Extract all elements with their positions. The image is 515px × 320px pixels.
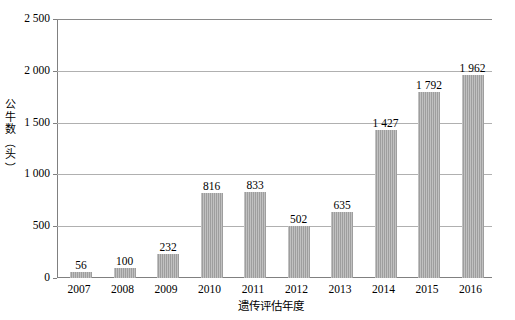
y-tick-label: 1 500 [8, 117, 50, 129]
x-tick-label: 2007 [58, 282, 100, 296]
bar-value-label: 816 [187, 180, 237, 192]
x-tick-label: 2012 [276, 282, 318, 296]
bar[interactable] [418, 92, 440, 278]
bars-layer: 561002328168335026351 4271 7921 962 [57, 19, 492, 278]
bar-group[interactable]: 232 [147, 19, 189, 278]
y-axis-title-open-paren: （ [4, 134, 17, 150]
x-tick-label: 2011 [232, 282, 274, 296]
bar-value-label: 502 [274, 213, 324, 225]
x-axis-title: 遗传评估年度 [0, 299, 515, 313]
bar[interactable] [157, 254, 179, 278]
x-tick-label: 2014 [363, 282, 405, 296]
bar-group[interactable]: 833 [234, 19, 276, 278]
x-tick-label: 2009 [145, 282, 187, 296]
x-tick-label: 2013 [319, 282, 361, 296]
x-tick-label: 2015 [406, 282, 448, 296]
bar-group[interactable]: 1 792 [408, 19, 450, 278]
bar-group[interactable]: 1 962 [452, 19, 494, 278]
bar[interactable] [114, 268, 136, 278]
x-tick-label: 2008 [102, 282, 144, 296]
x-tick-labels: 2007200820092010201120122013201420152016 [57, 282, 492, 298]
bar[interactable] [288, 226, 310, 278]
y-axis-title-char-0: 公 [2, 98, 18, 111]
y-tick-label: 500 [8, 220, 50, 232]
bar-value-label: 1 427 [361, 117, 411, 129]
bar-group[interactable]: 502 [278, 19, 320, 278]
bar-value-label: 833 [230, 179, 280, 191]
bar-group[interactable]: 56 [60, 19, 102, 278]
y-tick-label: 1 000 [8, 168, 50, 180]
bar-value-label: 100 [100, 255, 150, 267]
y-axis-tick [53, 278, 57, 279]
bar-value-label: 1 792 [404, 79, 454, 91]
bar-value-label: 635 [317, 199, 367, 211]
bar[interactable] [70, 272, 92, 278]
bar-group[interactable]: 816 [191, 19, 233, 278]
bar-value-label: 232 [143, 241, 193, 253]
bar[interactable] [201, 193, 223, 278]
y-tick-label: 0 [8, 272, 50, 284]
y-tick-label: 2 500 [8, 13, 50, 25]
bar-value-label: 1 962 [448, 62, 498, 74]
bar-chart: 公 牛 数 （ 头 ） 05001 0001 5002 0002 500 561… [0, 0, 515, 320]
bar[interactable] [244, 192, 266, 278]
bar[interactable] [331, 212, 353, 278]
x-tick-label: 2010 [189, 282, 231, 296]
y-tick-label: 2 000 [8, 65, 50, 77]
bar-group[interactable]: 100 [104, 19, 146, 278]
bar[interactable] [375, 130, 397, 278]
x-tick-label: 2016 [450, 282, 492, 296]
bar[interactable] [462, 75, 484, 278]
bar-value-label: 56 [56, 259, 106, 271]
y-axis-title: 公 牛 数 （ 头 ） [2, 98, 18, 173]
bar-group[interactable]: 1 427 [365, 19, 407, 278]
bar-group[interactable]: 635 [321, 19, 363, 278]
